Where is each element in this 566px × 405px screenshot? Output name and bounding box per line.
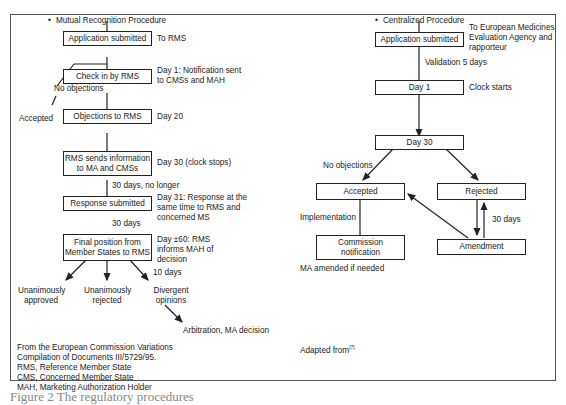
- figure-caption: Figure 2 The regulatory procedures: [10, 389, 194, 405]
- mrp-outcome-arbitration: Arbitration, MA decision: [183, 326, 269, 336]
- cp-footnote-text: Adapted from: [300, 346, 349, 355]
- cp-amendment-box: Amendment: [437, 239, 526, 255]
- cp-note-clock-starts: Clock starts: [469, 83, 512, 93]
- mrp-rms-sends-box: RMS sends information to MA and CMSs: [63, 151, 152, 176]
- mrp-note-10-days: 10 days: [153, 268, 182, 278]
- mrp-note-day1: Day 1: Notification sent to CMSs and MAH: [157, 66, 247, 86]
- cp-note-validation: Validation 5 days: [425, 58, 487, 68]
- cp-note-to-emea: To European Medicines Evaluation Agency …: [469, 23, 559, 53]
- mrp-note-day31: Day 31: Response at the same time to RMS…: [157, 193, 269, 223]
- mrp-note-day30: Day 30 (clock stops): [157, 158, 231, 168]
- cp-note-implementation: Implementation: [300, 213, 356, 223]
- mrp-final-position-box: Final position from Member States to RMS: [63, 234, 152, 261]
- mrp-note-30-days: 30 days: [112, 219, 141, 229]
- mrp-note-day20: Day 20: [157, 112, 183, 122]
- mrp-note-30-days-no-longer: 30 days, no longer: [112, 181, 179, 191]
- cp-note-30-days: 30 days: [492, 215, 521, 225]
- mrp-outcome-rejected: Unanimously rejected: [84, 286, 130, 306]
- mrp-footnote-line: Compilation of Documents III/5729/95.: [17, 353, 173, 363]
- cp-title: Centralized Procedure: [375, 16, 464, 26]
- mrp-outcome-divergent: Divergent opinions: [151, 286, 191, 306]
- cp-application-box: Application submitted: [375, 32, 464, 47]
- mrp-title: Mutual Recognition Procedure: [48, 16, 166, 26]
- mrp-footnote-line: From the European Commission Variations: [17, 343, 173, 353]
- mrp-footnote-line: RMS, Reference Member State: [17, 363, 173, 373]
- cp-footnote: Adapted from[7]: [300, 342, 355, 356]
- cp-day1-box: Day 1: [375, 80, 464, 95]
- mrp-accepted-label: Accepted: [19, 114, 53, 124]
- cp-footnote-ref: [7]: [349, 344, 355, 350]
- mrp-objections-box: Objections to RMS: [63, 109, 152, 124]
- cp-accepted-box: Accepted: [316, 183, 405, 200]
- mrp-note-day60: Day ±60: RMS informs MAH of decision: [157, 235, 239, 265]
- mrp-footnotes: From the European Commission Variations …: [17, 343, 173, 393]
- mrp-note-to-rms: To RMS: [157, 34, 186, 44]
- cp-day30-box: Day 30: [375, 135, 464, 150]
- cp-rejected-box: Rejected: [437, 183, 526, 200]
- mrp-footnote-line: CMS, Concerned Member State: [17, 373, 173, 383]
- mrp-no-objections-label: No objections: [54, 84, 104, 94]
- mrp-check-in-box: Check in by RMS: [63, 69, 152, 84]
- cp-commission-box: Commission notification: [316, 235, 405, 260]
- mrp-outcome-approved: Unanimously approved: [18, 286, 64, 306]
- cp-no-objections-label: No objections: [323, 161, 373, 171]
- mrp-response-box: Response submitted: [63, 196, 152, 211]
- cp-note-ma-amended: MA amended if needed: [300, 264, 384, 274]
- mrp-application-box: Application submitted: [63, 31, 152, 46]
